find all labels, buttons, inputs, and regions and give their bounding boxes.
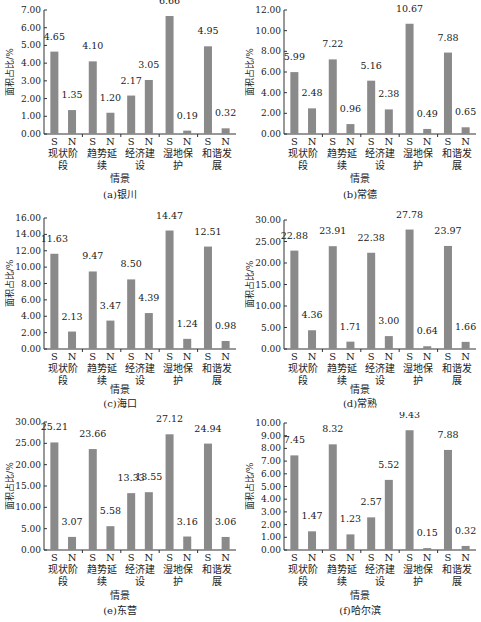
bar: [222, 537, 230, 550]
category-label: 续: [97, 575, 107, 587]
y-tick-label: 3.00: [261, 507, 281, 517]
bar-value-label: 0.19: [177, 110, 198, 121]
series-sub-label: N: [423, 351, 432, 362]
category-label: 趋势延: [327, 563, 357, 575]
category-label: 设: [135, 576, 145, 587]
chart-caption: (e)东营: [0, 602, 240, 617]
series-sub-label: N: [461, 136, 470, 147]
bar: [385, 109, 393, 134]
bar: [183, 339, 191, 349]
bar: [462, 342, 470, 349]
bar: [145, 313, 153, 349]
series-sub-label: S: [406, 552, 413, 563]
category-label: 湿地保: [163, 362, 193, 374]
bar-value-label: 0.64: [417, 325, 438, 336]
bar: [367, 81, 375, 134]
series-sub-label: N: [384, 351, 393, 362]
bar-value-label: 27.12: [156, 413, 183, 424]
category-label: 现状阶: [288, 563, 318, 575]
bar: [423, 548, 431, 550]
bar: [423, 129, 431, 134]
series-sub-label: S: [166, 136, 173, 147]
bar-value-label: 9.47: [82, 250, 103, 261]
y-tick-label: 16.00: [15, 213, 41, 223]
bar-value-label: 8.32: [322, 423, 343, 434]
series-sub-label: N: [461, 552, 470, 563]
chart-caption: (a)银川: [0, 186, 240, 201]
chart-panel-e: 0.005.0010.0015.0020.0025.0030.00面积占比/%2…: [0, 412, 240, 617]
series-sub-label: N: [144, 552, 153, 563]
bar: [127, 279, 135, 349]
series-sub-label: N: [346, 136, 355, 147]
category-label: 趋势延: [327, 147, 357, 159]
series-sub-label: S: [89, 552, 96, 563]
series-sub-label: S: [445, 136, 452, 147]
series-sub-label: S: [291, 136, 298, 147]
bar-value-label: 0.49: [417, 108, 438, 119]
bar: [204, 444, 212, 550]
bar-value-label: 6.66: [159, 0, 180, 6]
bar-value-label: 5.99: [284, 51, 305, 62]
category-label: 湿地保: [403, 362, 433, 374]
bar-value-label: 5.58: [100, 505, 121, 516]
y-tick-label: 4.00: [261, 494, 281, 504]
bar-value-label: 1.66: [455, 321, 476, 332]
category-label: 护: [413, 575, 423, 587]
series-sub-label: S: [51, 136, 58, 147]
bar-value-label: 2.48: [301, 87, 322, 98]
y-tick-label: 2.00: [21, 328, 41, 338]
bar: [50, 442, 58, 550]
y-tick-label: 2.00: [261, 520, 281, 530]
category-label: 和谐发: [202, 147, 232, 159]
bar-value-label: 3.00: [378, 315, 399, 326]
category-label: 现状阶: [48, 362, 78, 374]
bar-value-label: 0.32: [455, 525, 476, 536]
chart-panel-a: 0.001.002.003.004.005.006.007.00面积占比/%4.…: [0, 0, 240, 205]
y-tick-label: 6.00: [261, 469, 281, 479]
y-tick-label: 12.00: [15, 246, 41, 256]
y-axis-title: 面积占比/%: [4, 48, 15, 96]
bar: [166, 231, 174, 349]
bar: [308, 531, 316, 550]
bar: [346, 534, 354, 550]
bar-value-label: 2.38: [378, 88, 399, 99]
y-tick-label: 6.00: [21, 295, 41, 305]
category-label: 和谐发: [442, 563, 472, 575]
category-label: 和谐发: [202, 563, 232, 575]
bar-value-label: 3.07: [61, 516, 82, 527]
series-sub-label: S: [128, 351, 135, 362]
series-sub-label: S: [89, 136, 96, 147]
chart-panel-f: 0.001.002.003.004.005.006.007.008.009.00…: [240, 412, 480, 617]
bar-value-label: 0.65: [455, 106, 476, 117]
category-label: 和谐发: [202, 362, 232, 374]
y-tick-label: 0.00: [261, 545, 281, 555]
bar-value-label: 2.57: [361, 496, 382, 507]
bar-value-label: 7.22: [322, 38, 343, 49]
category-label: 展: [452, 576, 462, 587]
bar-chart: 0.005.0010.0015.0020.0025.0030.00面积占比/%2…: [240, 205, 480, 410]
bar-value-label: 22.88: [281, 230, 308, 241]
series-sub-label: S: [329, 351, 336, 362]
y-tick-label: 8.00: [21, 279, 41, 289]
series-sub-label: S: [291, 552, 298, 563]
category-label: 趋势延: [327, 362, 357, 374]
series-sub-label: N: [423, 136, 432, 147]
category-label: 段: [298, 575, 308, 587]
chart-caption: (f)哈尔滨: [240, 602, 480, 617]
series-sub-label: N: [423, 552, 432, 563]
bar-value-label: 7.88: [437, 429, 458, 440]
series-sub-label: S: [51, 351, 58, 362]
category-label: 湿地保: [163, 147, 193, 159]
category-label: 趋势延: [87, 147, 117, 159]
bar-value-label: 23.66: [79, 428, 106, 439]
category-label: 段: [58, 575, 68, 587]
bar-chart: 0.002.004.006.008.0010.0012.0014.0016.00…: [0, 205, 240, 410]
series-sub-label: S: [445, 552, 452, 563]
series-sub-label: N: [221, 351, 230, 362]
y-tick-label: 6.00: [261, 67, 281, 77]
category-label: 现状阶: [48, 147, 78, 159]
y-tick-label: 10.00: [15, 262, 41, 272]
category-label: 现状阶: [288, 147, 318, 159]
y-axis-title: 面积占比/%: [244, 260, 255, 308]
bar: [308, 330, 316, 349]
